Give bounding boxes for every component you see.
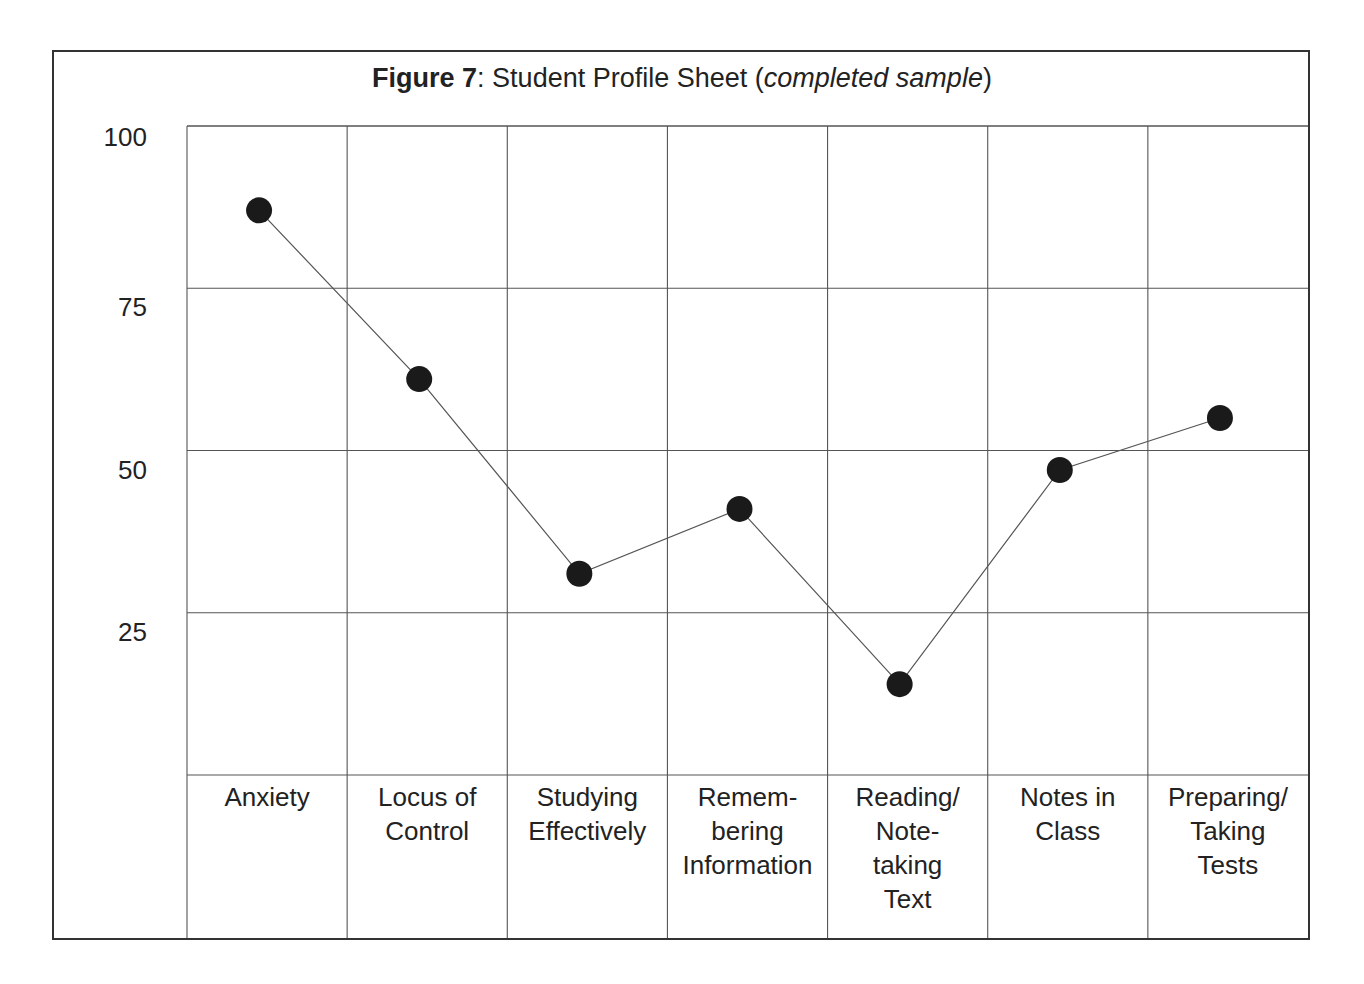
y-tick-25: 25 [118,617,147,647]
category-label-line: Taking [1148,814,1308,848]
data-point-6 [1207,405,1233,431]
data-point-3 [727,496,753,522]
category-label-line: Locus of [347,780,507,814]
category-label-line: Effectively [507,814,667,848]
data-point-2 [566,561,592,587]
category-label-line: Class [988,814,1148,848]
category-label-line: Reading/ [828,780,988,814]
category-label: Anxiety [187,780,347,814]
category-label-line: bering [667,814,827,848]
category-label: Locus ofControl [347,780,507,848]
category-label-line: Notes in [988,780,1148,814]
category-label: Notes inClass [988,780,1148,848]
data-point-0 [246,197,272,223]
category-label-line: Preparing/ [1148,780,1308,814]
data-point-5 [1047,457,1073,483]
data-point-4 [887,671,913,697]
category-label-line: taking [828,848,988,882]
category-label: Preparing/TakingTests [1148,780,1308,882]
category-label: StudyingEffectively [507,780,667,848]
category-label-line: Tests [1148,848,1308,882]
category-label-line: Information [667,848,827,882]
category-label-line: Remem- [667,780,827,814]
category-label-line: Anxiety [187,780,347,814]
category-label: Reading/Note-takingText [828,780,988,916]
category-label-line: Control [347,814,507,848]
y-tick-75: 75 [118,292,147,322]
y-tick-100: 100 [104,122,147,152]
category-label-line: Studying [507,780,667,814]
y-tick-50: 50 [118,455,147,485]
data-point-1 [406,366,432,392]
category-label: Remem-beringInformation [667,780,827,882]
category-label-line: Text [828,882,988,916]
category-label-line: Note- [828,814,988,848]
